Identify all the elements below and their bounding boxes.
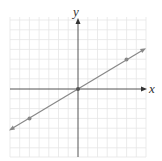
coordinate-graph: x y [0, 0, 162, 161]
point-pos [125, 58, 129, 62]
point-origin [76, 87, 80, 91]
y-axis-label: y [71, 4, 79, 19]
x-axis-label: x [148, 81, 155, 96]
point-neg [28, 116, 32, 120]
line-arrow-end-icon [140, 48, 146, 53]
